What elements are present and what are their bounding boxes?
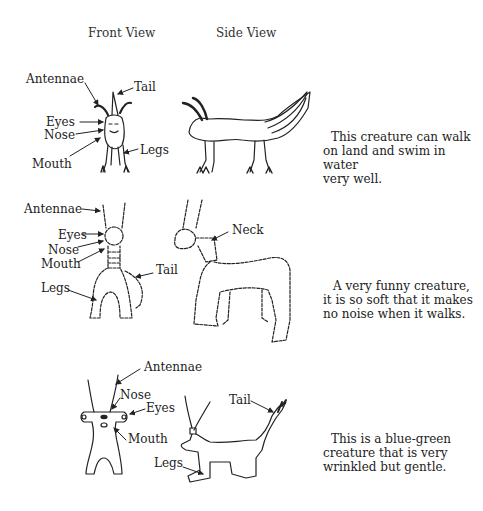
c2-label-neck: Neck xyxy=(232,223,264,237)
c3-label-antennae: Antennae xyxy=(144,360,202,374)
c1-description: This creature can walk on land and swim … xyxy=(323,130,483,186)
c2-label-legs: Legs xyxy=(41,281,70,295)
c1-desc-line: on land and swim in water xyxy=(323,144,483,172)
c1-label-antennae: Antennae xyxy=(26,72,84,86)
creature1-front-drawing xyxy=(95,92,131,172)
c3-label-eyes: Eyes xyxy=(146,401,175,415)
creature3-side-drawing xyxy=(181,396,286,482)
c1-label-mouth: Mouth xyxy=(32,157,72,171)
c2-desc-line: A very funny creature, xyxy=(323,279,483,293)
c1-label-eyes: Eyes xyxy=(46,115,75,129)
c2-desc-line: no noise when it walks. xyxy=(323,307,483,321)
c1-label-tail: Tail xyxy=(134,80,156,94)
c3-label-tail: Tail xyxy=(229,393,251,407)
creature1-side-drawing xyxy=(183,92,310,173)
c3-label-legs: Legs xyxy=(154,456,183,470)
c1-desc-line: This creature can walk xyxy=(323,130,483,144)
creature2-front-arrows xyxy=(68,209,153,300)
neck-arrow xyxy=(212,232,228,240)
c3-desc-line: creature that is very xyxy=(323,446,483,460)
c2-desc-line: it is so soft that it makes xyxy=(323,293,483,307)
c3-desc-line: This is a blue-green xyxy=(323,432,483,446)
creature2-side-drawing xyxy=(175,200,290,342)
c2-label-tail: Tail xyxy=(156,263,178,277)
creature2-front-drawing xyxy=(90,203,142,318)
c3-desc-line: wrinkled but gentle. xyxy=(323,460,483,474)
c2-label-nose: Nose xyxy=(48,243,79,257)
c3-label-mouth: Mouth xyxy=(128,432,168,446)
c2-description: A very funny creature, it is so soft tha… xyxy=(323,279,483,321)
c3-description: This is a blue-green creature that is ve… xyxy=(323,432,483,474)
creature1-front-arrows xyxy=(70,83,138,156)
c1-label-legs: Legs xyxy=(140,143,169,157)
c2-label-antennae: Antennae xyxy=(24,202,82,216)
c3-label-nose: Nose xyxy=(120,388,151,402)
c1-desc-line: very well. xyxy=(323,172,483,186)
c2-label-mouth: Mouth xyxy=(41,257,81,271)
c1-label-nose: Nose xyxy=(44,128,75,142)
c2-label-eyes: Eyes xyxy=(58,228,87,242)
